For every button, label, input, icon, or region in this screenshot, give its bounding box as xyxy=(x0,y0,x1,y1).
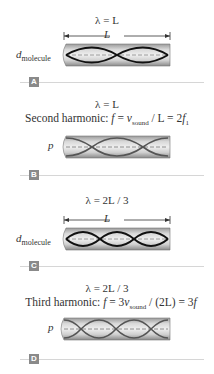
panel-c: λ = 2L / 3 L dmolecule C xyxy=(0,184,214,276)
divider xyxy=(20,82,204,83)
dimension-label: L xyxy=(0,28,214,40)
displacement-label: dmolecule xyxy=(16,232,51,247)
panel-b: λ = L Second harmonic: f = vsound / L = … xyxy=(0,92,214,184)
pressure-label: p xyxy=(48,139,54,151)
panel-badge: A xyxy=(29,77,39,87)
dimension-label: L xyxy=(0,212,214,224)
panel-badge: B xyxy=(29,170,39,180)
panel-badge: C xyxy=(29,261,39,271)
divider xyxy=(20,175,204,176)
divider xyxy=(20,359,204,360)
panel-d: λ = 2L / 3 Third harmonic: f = 3vsound /… xyxy=(0,276,214,374)
panel-badge: D xyxy=(29,354,39,364)
panel-a: λ = L L dmolecule A xyxy=(0,0,214,92)
divider xyxy=(20,266,204,267)
pressure-label: p xyxy=(48,321,54,333)
displacement-label: dmolecule xyxy=(16,48,51,63)
